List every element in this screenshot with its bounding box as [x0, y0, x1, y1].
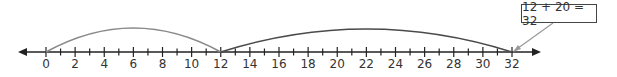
right-arrow-icon: [532, 48, 541, 56]
tick-label-32: 32: [504, 57, 519, 71]
tick-label-22: 22: [359, 57, 374, 71]
tick-label-4: 4: [100, 57, 108, 71]
tick-label-30: 30: [475, 57, 490, 71]
tick-labels: 02468101214161820222426283032: [42, 57, 519, 71]
tick-label-26: 26: [417, 57, 432, 71]
tick-label-14: 14: [242, 57, 257, 71]
tick-label-12: 12: [213, 57, 228, 71]
tick-label-6: 6: [130, 57, 138, 71]
equation-callout: 12 + 20 = 32: [521, 4, 597, 23]
callout-arrowhead-icon: [513, 45, 521, 52]
left-arrow-icon: [18, 48, 27, 56]
tick-label-0: 0: [42, 57, 50, 71]
equation-text: 12 + 20 = 32: [522, 0, 596, 28]
tick-label-10: 10: [184, 57, 199, 71]
tick-label-24: 24: [388, 57, 403, 71]
tick-label-18: 18: [300, 57, 315, 71]
tick-label-28: 28: [446, 57, 461, 71]
tick-label-16: 16: [271, 57, 286, 71]
tick-label-8: 8: [159, 57, 167, 71]
tick-label-2: 2: [71, 57, 79, 71]
tick-label-20: 20: [330, 57, 345, 71]
